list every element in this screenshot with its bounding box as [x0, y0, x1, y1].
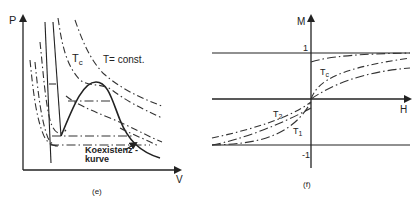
curve-label-t1: T1 [293, 126, 303, 137]
tick-minus-one: -1 [302, 150, 310, 160]
tick-plus-one: 1 [303, 43, 308, 53]
curve-label-t2: T2 [273, 109, 283, 120]
diagram-canvas: P V Tc T= const. Koexistenz - kurve (e) … [0, 0, 418, 205]
magnetization-curve-lower-t1 [212, 102, 311, 145]
panel-e-caption: (e) [92, 187, 102, 196]
p-axis-label: P [9, 14, 16, 26]
curve-label-tc: Tc [320, 67, 330, 78]
magnetization-curve-upper-tc [311, 53, 410, 62]
coexistence-label-line2: kurve [85, 154, 109, 164]
isotherm-critical [58, 18, 162, 118]
panel-f-caption: (f) [303, 180, 311, 189]
h-axis-label: H [400, 104, 407, 115]
liquid-branch-line-1 [45, 22, 51, 163]
panel-e-pv-diagram: P V Tc T= const. Koexistenz - kurve (e) [9, 14, 183, 196]
liquid-branch-line-2 [53, 22, 61, 136]
magnetization-curve-upper-t2 [311, 58, 410, 99]
v-axis-label: V [176, 174, 183, 185]
m-axis-label: M [297, 16, 305, 27]
critical-temp-label: Tc [72, 52, 83, 67]
panel-f-mh-diagram: M H 1 -1 Tc T2 T1 (f) [212, 16, 410, 189]
isotherm-label: T= const. [103, 54, 144, 65]
